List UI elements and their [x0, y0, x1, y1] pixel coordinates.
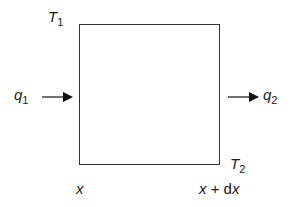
label-t1: T1	[48, 9, 63, 24]
label-x: x	[76, 181, 84, 196]
label-x-plus-dx: x + dx	[199, 181, 239, 196]
flux-arrows	[0, 0, 303, 207]
arrow-in-icon	[42, 92, 73, 102]
label-q2: q2	[263, 87, 277, 102]
arrow-out-icon	[228, 92, 259, 102]
label-t2: T2	[230, 156, 245, 171]
label-q1: q1	[14, 87, 28, 102]
